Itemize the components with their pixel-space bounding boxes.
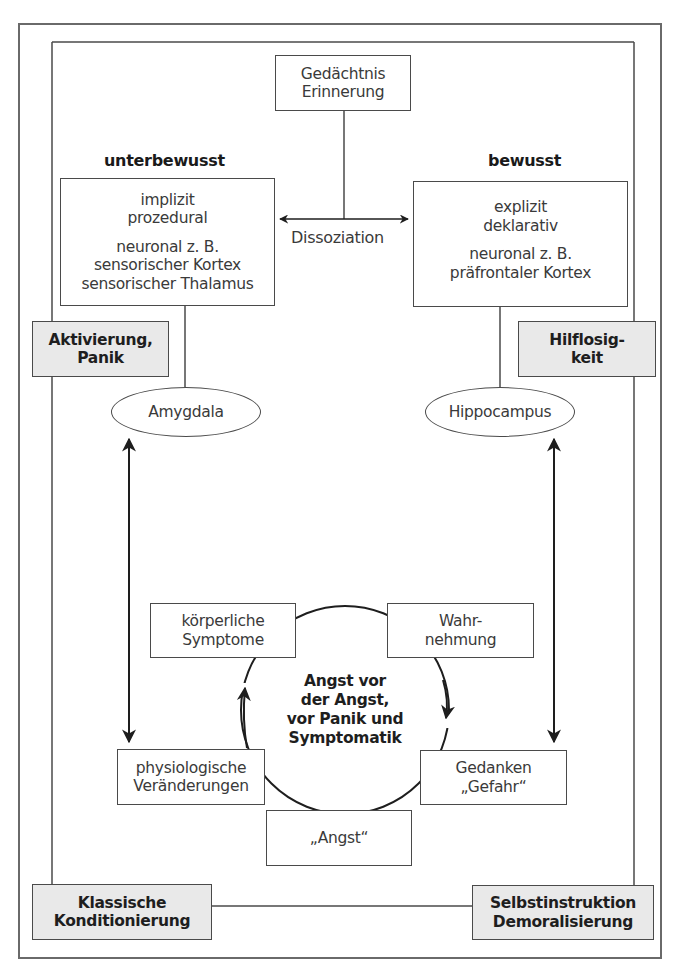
classical-conditioning-box: Klassische Konditionierung — [32, 884, 212, 940]
physiological-line-2: Veränderungen — [133, 777, 248, 796]
center-line-3: vor Panik und — [265, 710, 425, 729]
implicit-memory-box: implizit prozedural neuronal z. B. senso… — [60, 178, 275, 306]
implicit-line-5: sensorischer Kortex — [94, 256, 241, 275]
amygdala-label: Amygdala — [148, 403, 223, 421]
center-line-2: der Angst, — [265, 691, 425, 710]
amygdala-ellipse: Amygdala — [111, 387, 261, 437]
thoughts-line-2: „Gefahr“ — [461, 778, 527, 797]
helplessness-line-1: Hilflosig- — [549, 331, 624, 350]
activation-line-1: Aktivierung, — [48, 331, 152, 350]
explicit-memory-box: explizit deklarativ neuronal z. B. präfr… — [413, 181, 628, 307]
heading-unconscious: unterbewusst — [104, 151, 225, 170]
hippocampus-label: Hippocampus — [449, 403, 552, 421]
physiological-line-1: physiologische — [136, 759, 246, 778]
explicit-line-4: neuronal z. B. — [469, 245, 572, 264]
implicit-line-1: implizit — [141, 191, 195, 210]
center-line-4: Symptomatik — [265, 729, 425, 748]
self-instruction-line-1: Selbstinstruktion — [490, 894, 636, 913]
helplessness-line-2: keit — [571, 349, 603, 368]
self-instruction-box: Selbstinstruktion Demoralisierung — [472, 885, 654, 940]
anxiety-model-diagram: unterbewusst bewusst Gedächtnis Erinneru… — [0, 0, 675, 976]
perception-line-1: Wahr- — [439, 612, 482, 631]
implicit-line-4: neuronal z. B. — [116, 238, 219, 257]
thoughts-line-1: Gedanken — [455, 759, 531, 778]
hippocampus-ellipse: Hippocampus — [425, 387, 575, 437]
memory-line-1: Gedächtnis — [301, 65, 386, 84]
explicit-line-2: deklarativ — [483, 217, 558, 236]
dissociation-label: Dissoziation — [291, 228, 384, 247]
cycle-node-bodily-symptoms: körperliche Symptome — [150, 603, 296, 658]
self-instruction-line-2: Demoralisierung — [493, 913, 633, 932]
implicit-line-6: sensorischer Thalamus — [81, 275, 253, 294]
heading-conscious: bewusst — [488, 151, 561, 170]
classical-line-2: Konditionierung — [54, 912, 190, 931]
perception-line-2: nehmung — [425, 631, 497, 650]
bodily-line-2: Symptome — [182, 631, 264, 650]
bodily-line-1: körperliche — [181, 612, 264, 631]
implicit-line-2: prozedural — [128, 209, 208, 228]
memory-line-2: Erinnerung — [302, 83, 385, 102]
cycle-node-physiological-changes: physiologische Veränderungen — [117, 749, 265, 805]
activation-line-2: Panik — [77, 349, 124, 368]
explicit-line-5: präfrontaler Kortex — [450, 264, 591, 283]
cycle-node-thoughts-danger: Gedanken „Gefahr“ — [420, 750, 567, 805]
explicit-line-1: explizit — [494, 198, 547, 217]
cycle-node-perception: Wahr- nehmung — [387, 603, 534, 658]
activation-panic-box: Aktivierung, Panik — [32, 321, 169, 377]
center-line-1: Angst vor — [265, 672, 425, 691]
cycle-center-label: Angst vor der Angst, vor Panik und Sympt… — [265, 672, 425, 748]
classical-line-1: Klassische — [78, 894, 167, 913]
memory-box: Gedächtnis Erinnerung — [275, 55, 411, 111]
fear-line-1: „Angst“ — [310, 829, 369, 848]
helplessness-box: Hilflosig- keit — [518, 321, 656, 377]
cycle-node-fear: „Angst“ — [266, 810, 412, 866]
